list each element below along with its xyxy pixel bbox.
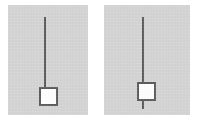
diagram-panel-left [8, 5, 88, 115]
pendulum-rod-left [44, 17, 46, 87]
figure-root [0, 0, 198, 120]
panel-label-left [8, 5, 9, 6]
pendulum-bob-left [39, 87, 58, 106]
diagram-panel-right [104, 5, 190, 115]
figure-caption [0, 0, 1, 1]
panel-label-right [104, 5, 105, 6]
pendulum-bob-right [137, 82, 156, 101]
